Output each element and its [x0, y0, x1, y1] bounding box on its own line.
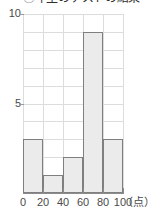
- y-axis-ticks: 105: [0, 0, 21, 215]
- x-tick-mark: [83, 188, 84, 194]
- y-tick-label: 5: [15, 98, 21, 109]
- gridline-horizontal: [23, 68, 123, 69]
- x-tick-mark: [103, 188, 104, 194]
- gridline-horizontal: [23, 86, 123, 87]
- histogram-bar: [23, 139, 43, 193]
- y-tick-mark: [19, 14, 24, 15]
- x-tick-mark: [63, 188, 64, 194]
- gridline-horizontal: [23, 50, 123, 51]
- gridline-vertical: [43, 14, 44, 193]
- x-tick-mark: [43, 188, 44, 194]
- x-axis-line: [23, 193, 124, 194]
- plot-area: [23, 14, 123, 193]
- histogram-bar: [63, 157, 83, 193]
- gridline-horizontal: [23, 32, 123, 33]
- histogram-chart: ◯年生のテストの結果 105 （点） 020406080100: [0, 0, 159, 215]
- gridline-horizontal: [23, 104, 123, 105]
- histogram-bar: [43, 175, 63, 193]
- gridline-vertical: [123, 14, 124, 193]
- x-axis-ticks: （点） 020406080100: [0, 196, 159, 215]
- y-tick-mark: [19, 104, 24, 105]
- histogram-bar: [103, 139, 123, 193]
- gridline-horizontal: [23, 14, 123, 15]
- chart-title: ◯年生のテストの結果: [23, 0, 140, 4]
- gridline-horizontal: [23, 121, 123, 122]
- x-tick-mark: [123, 188, 124, 194]
- histogram-bar: [83, 32, 103, 193]
- x-tick-label: 100: [111, 196, 135, 209]
